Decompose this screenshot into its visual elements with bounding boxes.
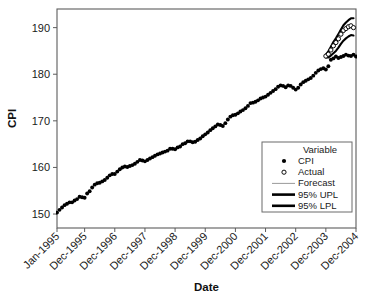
- cpi-point: [296, 86, 300, 90]
- y-axis-title: CPI: [6, 109, 18, 128]
- chart-canvas: 150160170180190 Jan-1995Dec-1995Dec-1996…: [0, 0, 373, 299]
- chart-legend: Variable CPIActualForecast95% UPL95% LPL: [262, 142, 352, 212]
- legend-label: 95% LPL: [298, 200, 337, 211]
- y-tick-label: 190: [32, 22, 50, 34]
- legend-label: Forecast: [298, 177, 335, 188]
- y-tick-label: 150: [32, 208, 50, 220]
- actual-point: [329, 48, 333, 52]
- y-tick-label: 160: [32, 161, 50, 173]
- cpi-point: [326, 64, 330, 68]
- cpi-point: [88, 189, 92, 193]
- cpi-point: [223, 121, 227, 125]
- actual-point: [336, 37, 340, 41]
- filled-circle-icon: [282, 159, 286, 163]
- actual-point: [351, 26, 355, 30]
- legend-label: Actual: [298, 166, 324, 177]
- y-tick-label: 170: [32, 115, 50, 127]
- cpi-point: [324, 68, 328, 72]
- open-circle-icon: [282, 170, 286, 174]
- legend-title: Variable: [303, 144, 337, 155]
- legend-label: CPI: [298, 155, 314, 166]
- cpi-point: [83, 196, 87, 200]
- x-axis-title: Date: [194, 281, 219, 293]
- y-tick-label: 180: [32, 68, 50, 80]
- cpi-forecast-chart: 150160170180190 Jan-1995Dec-1995Dec-1996…: [0, 0, 373, 299]
- legend-label: 95% UPL: [298, 189, 338, 200]
- actual-point: [326, 52, 330, 56]
